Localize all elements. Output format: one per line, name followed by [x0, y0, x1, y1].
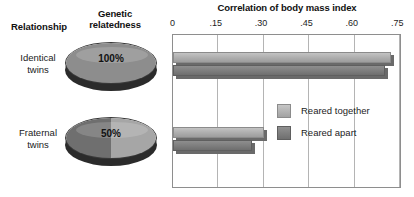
pie-value-identical-twins: 100%: [63, 53, 159, 64]
gridline: [399, 35, 400, 187]
column-header-genetic-relatedness-line1: Genetic: [72, 8, 158, 19]
bmi-heritability-figure: Relationship Genetic relatedness Correla…: [0, 0, 414, 197]
axis-tick-label: .60: [346, 18, 359, 28]
bar-chart-plot-area: 0.15.30.45.60.75 Reared together Reared …: [172, 34, 401, 188]
legend-item-reared-together: Reared together: [277, 102, 399, 124]
column-header-genetic-relatedness-line2: relatedness: [72, 19, 158, 30]
pie-value-fraternal-twins: 50%: [63, 128, 159, 139]
chart-title: Correlation of body mass index: [172, 2, 402, 13]
pie-chart-identical-twins-relatedness: 100%: [63, 40, 159, 94]
chart-legend: Reared together Reared apart: [277, 102, 399, 146]
bar-fraternal-twins-reared-together: [173, 127, 264, 138]
axis-tick-label: .30: [255, 18, 268, 28]
legend-swatch-icon-reared-apart: [277, 126, 291, 140]
legend-item-reared-apart: Reared apart: [277, 124, 399, 146]
bar-identical-twins-reared-apart: [173, 65, 385, 76]
legend-swatch-icon-reared-together: [277, 104, 291, 118]
legend-label-reared-together: Reared together: [301, 105, 370, 116]
axis-tick-label: .45: [300, 18, 313, 28]
pie-chart-fraternal-twins-relatedness: 50%: [63, 115, 159, 169]
axis-tick-label: 0: [170, 18, 175, 28]
axis-tick-label: .75: [391, 18, 404, 28]
bar-identical-twins-reared-together: [173, 52, 391, 63]
legend-label-reared-apart: Reared apart: [301, 127, 356, 138]
column-header-genetic-relatedness: Genetic relatedness: [72, 8, 158, 30]
column-header-relationship: Relationship: [2, 21, 76, 32]
axis-tick-label: .15: [209, 18, 222, 28]
bar-fraternal-twins-reared-apart: [173, 140, 252, 151]
